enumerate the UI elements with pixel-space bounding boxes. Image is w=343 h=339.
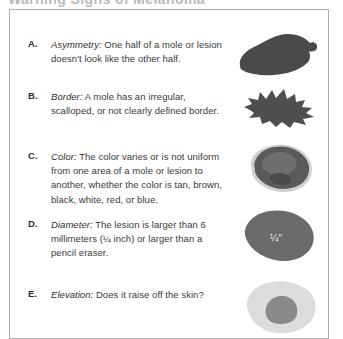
large-diameter-lesion-shape: ¼" — [232, 208, 328, 264]
item-term-e: Elevation: — [51, 289, 93, 300]
item-letter-a: A. — [28, 38, 38, 49]
item-text-c: Color: The color varies or is not unifor… — [51, 150, 223, 207]
cut-off-heading-strip: Warning Signs of Melanoma — [0, 0, 343, 9]
item-term-d: Diameter: — [51, 219, 93, 230]
item-text-b: Border: A mole has an irregular, scallop… — [51, 90, 223, 118]
asymmetric-lesion-shape — [232, 28, 328, 84]
item-text-a: Asymmetry: One half of a mole or lesion … — [51, 38, 223, 66]
varied-color-lesion-shape — [232, 140, 328, 196]
item-term-b: Border: — [51, 91, 83, 102]
item-letter-e: E. — [28, 288, 37, 299]
item-term-c: Color: — [51, 151, 77, 162]
item-text-d: Diameter: The lesion is larger than 6 mi… — [51, 218, 223, 261]
item-description-c: The color varies or is not uniform from … — [51, 151, 222, 205]
item-letter-d: D. — [28, 218, 38, 229]
diameter-scale-label: ¼" — [270, 233, 282, 244]
cut-off-heading-text: Warning Signs of Melanoma — [8, 0, 205, 7]
item-letter-c: C. — [28, 150, 38, 161]
item-description-e: Does it raise off the skin? — [93, 289, 204, 300]
irregular-border-lesion-shape — [232, 80, 328, 136]
item-letter-b: B. — [28, 90, 38, 101]
document-frame: A. Asymmetry: One half of a mole or lesi… — [9, 9, 329, 339]
elevated-lesion-shape — [232, 278, 328, 334]
item-text-e: Elevation: Does it raise off the skin? — [51, 288, 223, 302]
item-term-a: Asymmetry: — [51, 39, 102, 50]
